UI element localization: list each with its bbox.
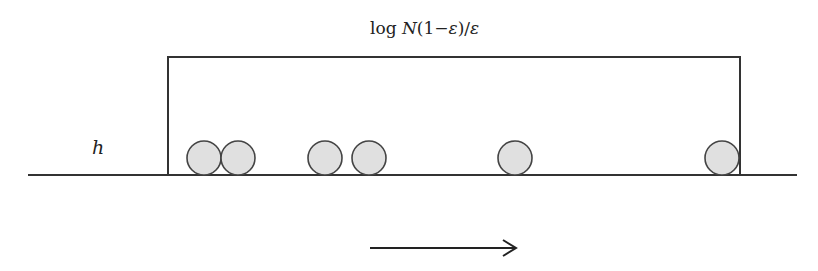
circle-4	[352, 141, 386, 175]
circles-group	[187, 141, 739, 175]
log-text: log	[370, 18, 402, 38]
one-minus-text: (1−	[417, 18, 449, 38]
epsilon-2: ε	[470, 18, 479, 38]
circle-5	[498, 141, 532, 175]
right-arrow-icon	[370, 240, 516, 256]
height-label: h	[92, 136, 104, 158]
diagram-canvas: log N(1−ε)/ε h	[0, 0, 818, 271]
circle-1	[187, 141, 221, 175]
circle-6	[705, 141, 739, 175]
circle-3	[308, 141, 342, 175]
epsilon-1: ε	[449, 18, 458, 38]
box-width-label: log N(1−ε)/ε	[370, 18, 479, 38]
close-divide-text: )/	[458, 18, 471, 38]
n-variable: N	[401, 18, 418, 38]
circle-2	[221, 141, 255, 175]
